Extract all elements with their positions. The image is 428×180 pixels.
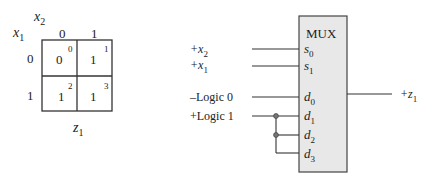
input-x2-label: +x2 <box>190 42 208 59</box>
svg-text:3: 3 <box>104 81 109 91</box>
input-logic1-label: +Logic 1 <box>190 109 234 123</box>
mux-title: MUX <box>306 26 337 41</box>
kmap-col-header-0: 0 <box>59 26 66 41</box>
kmap-cell-2: 1 2 <box>58 81 73 104</box>
diagram-canvas: x2 x1 0 1 0 1 0 0 1 1 1 2 1 3 z1 MUX s0 <box>0 0 428 180</box>
kmap-col-var: x2 <box>33 9 45 27</box>
svg-text:1: 1 <box>104 44 109 54</box>
junction-dot-d1 <box>274 114 279 119</box>
karnaugh-map: x2 x1 0 1 0 1 0 0 1 1 1 2 1 3 z1 <box>12 9 112 138</box>
svg-text:2: 2 <box>68 81 73 91</box>
input-logic0-label: –Logic 0 <box>189 90 233 104</box>
kmap-col-header-1: 1 <box>91 26 98 41</box>
svg-text:1: 1 <box>90 52 97 67</box>
kmap-cell-3: 1 3 <box>90 81 109 104</box>
svg-text:1: 1 <box>90 89 97 104</box>
kmap-cell-0: 0 0 <box>56 44 73 67</box>
output-z1-label: +z1 <box>400 87 417 104</box>
kmap-row-var: x1 <box>12 25 24 43</box>
svg-text:1: 1 <box>58 89 65 104</box>
multiplexer: MUX s0 s1 d0 d1 d2 d3 +x2 +x1 –Logic 0 +… <box>189 16 417 172</box>
kmap-output-label: z1 <box>72 120 83 138</box>
svg-text:0: 0 <box>56 52 63 67</box>
svg-text:0: 0 <box>68 44 73 54</box>
input-x1-label: +x1 <box>190 58 208 75</box>
kmap-row-header-0: 0 <box>27 51 34 66</box>
junction-dot-d2 <box>274 133 279 138</box>
kmap-row-header-1: 1 <box>27 88 34 103</box>
kmap-cell-1: 1 1 <box>90 44 109 67</box>
